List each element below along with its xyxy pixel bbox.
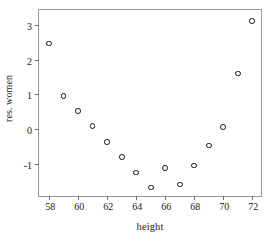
y-axis-tick: 2 bbox=[35, 60, 39, 61]
data-point bbox=[162, 165, 168, 171]
x-axis-tick: 68 bbox=[194, 196, 195, 200]
x-axis-tick: 58 bbox=[49, 196, 50, 200]
y-axis-title-text: res. women bbox=[4, 74, 15, 121]
y-axis-tick-label: -1 bbox=[24, 159, 32, 170]
x-axis-tick-label: 60 bbox=[74, 201, 84, 212]
x-axis-tick-label: 64 bbox=[132, 201, 142, 212]
data-point bbox=[133, 170, 139, 176]
x-axis-tick-label: 62 bbox=[103, 201, 113, 212]
x-axis-tick: 62 bbox=[107, 196, 108, 200]
data-point bbox=[90, 123, 96, 129]
data-point bbox=[75, 108, 81, 114]
data-point bbox=[46, 41, 52, 47]
y-axis-tick-label: 3 bbox=[27, 20, 32, 31]
y-axis-tick-label: 2 bbox=[27, 55, 32, 66]
plot-area: -101235860626466687072 bbox=[39, 10, 261, 196]
x-axis-tick-label: 70 bbox=[219, 201, 229, 212]
y-axis-tick-label: 1 bbox=[27, 90, 32, 101]
y-axis-tick: -1 bbox=[35, 164, 39, 165]
data-point bbox=[191, 163, 197, 169]
x-axis-tick: 66 bbox=[165, 196, 166, 200]
x-axis-tick: 64 bbox=[136, 196, 137, 200]
x-axis-tick-label: 68 bbox=[190, 201, 200, 212]
y-axis-tick: 0 bbox=[35, 129, 39, 130]
y-axis-tick: 1 bbox=[35, 94, 39, 95]
x-axis-tick-label: 72 bbox=[248, 201, 258, 212]
data-point bbox=[61, 93, 67, 99]
data-point bbox=[104, 139, 110, 145]
x-axis-tick-label: 58 bbox=[45, 201, 55, 212]
x-axis-tick-label: 66 bbox=[161, 201, 171, 212]
data-point bbox=[249, 18, 255, 24]
data-point bbox=[235, 71, 241, 77]
data-point bbox=[119, 154, 125, 160]
x-axis-tick: 72 bbox=[252, 196, 253, 200]
data-point bbox=[177, 182, 183, 188]
x-axis-title: height bbox=[38, 221, 262, 232]
data-point bbox=[220, 124, 226, 130]
plot-frame: -101235860626466687072 bbox=[38, 9, 262, 197]
y-axis-title: res. women bbox=[0, 0, 18, 196]
y-axis-tick: 3 bbox=[35, 25, 39, 26]
x-axis-tick: 70 bbox=[223, 196, 224, 200]
y-axis-tick-label: 0 bbox=[27, 125, 32, 136]
scatter-plot-figure: res. women -101235860626466687072 height bbox=[0, 0, 267, 245]
x-axis-tick: 60 bbox=[78, 196, 79, 200]
data-point bbox=[206, 143, 212, 149]
data-point bbox=[148, 185, 154, 191]
